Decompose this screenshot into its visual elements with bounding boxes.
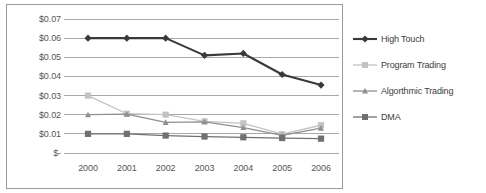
plot-area: $0.07$0.06$0.05$0.04$0.03$0.02$0.01$- 20… [6,4,343,189]
legend-item[interactable]: Program Trading [352,52,482,78]
x-axis-tick-label: 2000 [78,163,98,173]
data-point-marker [361,35,368,42]
legend-marker-icon [352,85,378,97]
x-axis: 2000200120022003200420052006 [7,5,342,188]
line-chart: $0.07$0.06$0.05$0.04$0.03$0.02$0.01$- 20… [0,0,486,193]
legend-item-label: High Touch [378,34,424,44]
legend-marker-icon [352,59,378,71]
x-axis-tick-label: 2003 [195,163,215,173]
x-axis-tick-label: 2006 [311,163,331,173]
legend-item-label: DMA [378,112,401,122]
legend-item[interactable]: DMA [352,104,482,130]
legend-item-label: Algorthmic Trading [378,86,453,96]
chart-legend: High TouchProgram TradingAlgorthmic Trad… [352,26,482,130]
x-axis-tick-label: 2001 [117,163,137,173]
x-axis-tick-label: 2004 [234,163,254,173]
legend-marker-icon [352,111,378,123]
legend-item[interactable]: High Touch [352,26,482,52]
data-point-marker [362,62,368,68]
legend-marker-icon [352,33,378,45]
x-axis-tick-label: 2002 [156,163,176,173]
legend-item-label: Program Trading [378,60,446,70]
data-point-marker [362,114,368,120]
legend-item[interactable]: Algorthmic Trading [352,78,482,104]
x-axis-tick-label: 2005 [272,163,292,173]
